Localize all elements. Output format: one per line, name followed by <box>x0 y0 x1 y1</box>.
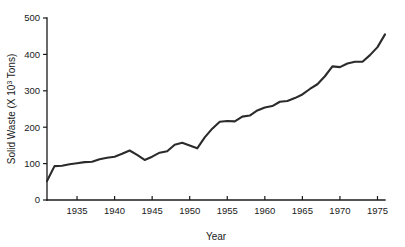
x-axis-ticks: 193519401945195019551960196519701975 <box>66 196 388 216</box>
x-tick-label: 1960 <box>254 205 275 216</box>
y-tick-label: 400 <box>24 49 40 60</box>
x-tick-label: 1940 <box>104 205 125 216</box>
x-tick-label: 1965 <box>292 205 313 216</box>
x-tick-label: 1935 <box>66 205 87 216</box>
y-tick-label: 100 <box>24 158 40 169</box>
x-tick-label: 1950 <box>179 205 200 216</box>
data-series-group <box>47 34 385 181</box>
axes-group <box>47 18 385 200</box>
x-tick-label: 1970 <box>329 205 350 216</box>
y-tick-label: 200 <box>24 122 40 133</box>
y-axis-title: Solid Waste (X 103 Tons) <box>6 54 18 165</box>
x-axis-title: Year <box>206 231 227 242</box>
x-tick-label: 1945 <box>142 205 163 216</box>
y-axis-title-suffix: Tons) <box>6 54 17 81</box>
y-tick-label: 500 <box>24 12 40 23</box>
x-tick-label: 1975 <box>367 205 388 216</box>
y-tick-label: 300 <box>24 85 40 96</box>
y-tick-label: 0 <box>35 194 40 205</box>
solid-waste-line-chart: 0100200300400500 19351940194519501955196… <box>0 0 405 247</box>
y-axis-title-prefix: Solid Waste (X 10 <box>6 84 17 164</box>
data-line-solid-waste <box>47 34 385 181</box>
y-axis-ticks: 0100200300400500 <box>24 12 47 205</box>
chart-container: 0100200300400500 19351940194519501955196… <box>0 0 405 247</box>
x-tick-label: 1955 <box>217 205 238 216</box>
